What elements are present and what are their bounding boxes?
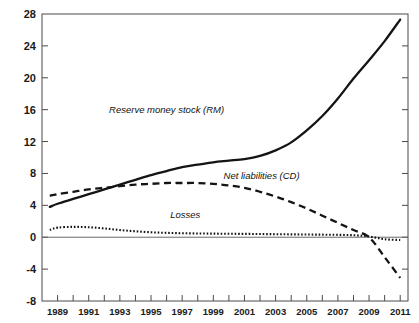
x-axis-tick-label: 1995 xyxy=(140,306,162,317)
y-axis-tick-label: 0 xyxy=(30,231,36,243)
series-label-2: Losses xyxy=(170,209,200,220)
x-axis-tick-label: 2011 xyxy=(390,306,411,317)
x-axis-tick-label: 2007 xyxy=(327,306,348,317)
plot-frame xyxy=(42,14,408,301)
x-axis-tick-label: 1993 xyxy=(109,306,130,317)
x-axis-tick-label: 2003 xyxy=(265,306,286,317)
x-axis-tick-label: 1989 xyxy=(47,306,68,317)
y-axis-tick-label: -8 xyxy=(26,295,36,307)
x-axis-tick-label: 2001 xyxy=(234,306,256,317)
line-chart: 2824201612840-4-819891991199319951997199… xyxy=(0,0,419,323)
x-axis-tick-label: 1999 xyxy=(203,306,224,317)
series-label-1: Net liabilities (CD) xyxy=(224,170,300,181)
y-axis-tick-label: 20 xyxy=(24,72,36,84)
y-axis-tick-label: 4 xyxy=(30,199,37,211)
x-axis-tick-label: 2009 xyxy=(358,306,379,317)
y-axis-tick-label: 8 xyxy=(30,167,36,179)
y-axis-tick-label: 24 xyxy=(24,40,37,52)
x-axis-tick-label: 1997 xyxy=(172,306,193,317)
series-label-0: Reserve money stock (RM) xyxy=(109,104,224,115)
y-axis-tick-label: 12 xyxy=(24,136,36,148)
series-line-2 xyxy=(50,227,400,240)
series-line-1 xyxy=(50,183,400,278)
x-axis-tick-label: 1991 xyxy=(78,306,100,317)
chart-container: 2824201612840-4-819891991199319951997199… xyxy=(0,0,419,323)
y-axis-tick-label: 16 xyxy=(24,104,36,116)
y-axis-tick-label: 28 xyxy=(24,8,36,20)
y-axis-tick-label: -4 xyxy=(26,263,37,275)
x-axis-tick-label: 2005 xyxy=(296,306,318,317)
